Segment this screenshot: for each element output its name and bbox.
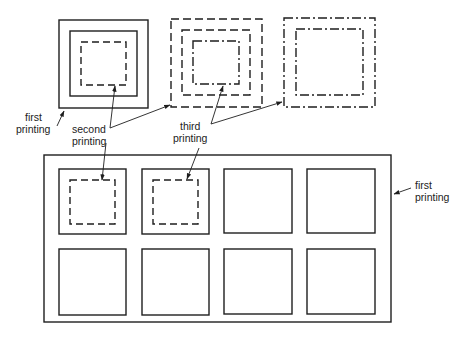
label-second-printing: second printing: [72, 123, 109, 147]
example-1: [59, 20, 148, 108]
example-2: [171, 19, 262, 107]
printing-sheet: [44, 155, 391, 322]
example-3: [284, 18, 375, 107]
leader-arrows: [57, 86, 411, 194]
label-first-printing-sheet: first printing: [415, 179, 450, 203]
label-third-printing: third printing: [173, 120, 208, 144]
label-first-printing-top: first printing: [16, 111, 51, 135]
printing-diagram: first printing second printing third pri…: [0, 0, 462, 341]
